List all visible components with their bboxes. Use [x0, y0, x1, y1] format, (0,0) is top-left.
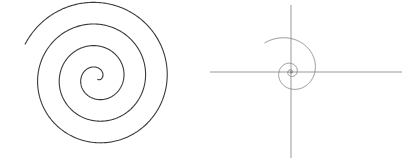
- spiral-figure: Archimedean spiral Logarithmic spiral: [0, 0, 416, 163]
- logarithmic-spiral-curve: [265, 38, 316, 90]
- archimedean-spiral-curve: [25, 2, 167, 142]
- logarithmic-spiral-panel: [210, 5, 402, 158]
- archimedean-spiral-panel: [25, 2, 167, 142]
- spiral-svg-canvas: [0, 0, 416, 163]
